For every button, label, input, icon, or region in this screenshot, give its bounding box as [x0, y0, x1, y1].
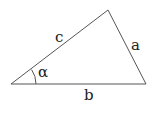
angle-alpha-arc [32, 70, 36, 84]
triangle-diagram: c a α b [0, 0, 155, 113]
angle-alpha-label: α [38, 63, 48, 81]
triangle-shape [11, 10, 146, 84]
side-a-label: a [131, 36, 140, 54]
side-b-label: b [84, 86, 94, 104]
triangle-figure: c a α b [0, 0, 155, 113]
side-c-label: c [55, 28, 63, 46]
